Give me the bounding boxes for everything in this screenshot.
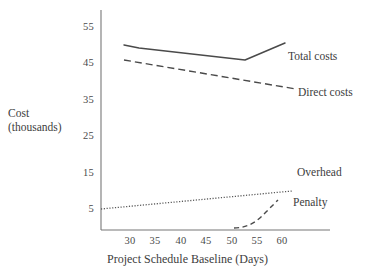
series-line-total-costs [124, 43, 285, 60]
x-tick-label-60: 60 [277, 235, 288, 246]
series-label-direct-costs: Direct costs [298, 86, 353, 98]
x-tick-label-40: 40 [176, 235, 187, 246]
y-tick-label-25: 25 [74, 130, 94, 141]
series-label-total-costs: Total costs [288, 50, 337, 62]
y-axis-title-line1: Cost [8, 106, 62, 120]
x-tick-label-45: 45 [201, 235, 212, 246]
y-tick-label-45: 45 [74, 57, 94, 68]
y-tick-label-55: 55 [74, 21, 94, 32]
series-line-overhead [101, 191, 292, 209]
x-tick-label-50: 50 [227, 235, 238, 246]
y-tick-label-5: 5 [74, 203, 94, 214]
y-axis-title-line2: (thousands) [8, 120, 62, 134]
series-label-penalty: Penalty [293, 196, 328, 208]
y-tick-label-35: 35 [74, 94, 94, 105]
series-line-penalty [234, 200, 278, 228]
x-tick-label-55: 55 [252, 235, 263, 246]
y-axis-title: Cost (thousands) [8, 106, 62, 134]
series-line-direct-costs [124, 60, 296, 89]
chart-plot-area [0, 0, 375, 275]
x-tick-label-35: 35 [150, 235, 161, 246]
x-tick-label-30: 30 [125, 235, 136, 246]
y-tick-label-15: 15 [74, 167, 94, 178]
x-axis-title: Project Schedule Baseline (Days) [0, 252, 375, 267]
series-label-overhead: Overhead [297, 166, 342, 178]
cost-vs-schedule-line-chart: Cost (thousands) 55 45 35 25 15 5 30 35 … [0, 0, 375, 275]
